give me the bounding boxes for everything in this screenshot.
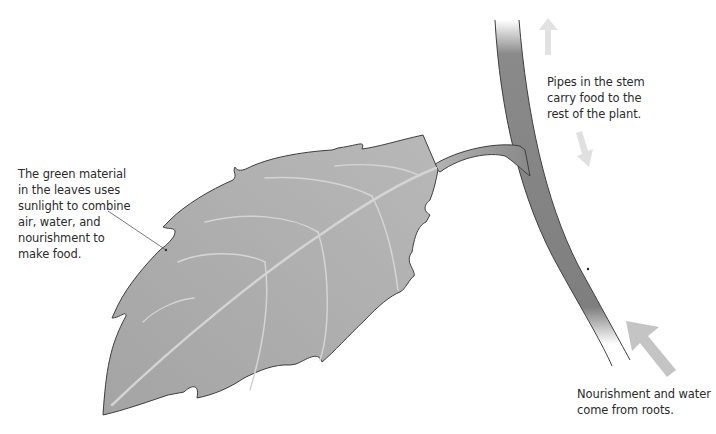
stem (495, 20, 630, 366)
leaf-label: The green material in the leaves uses su… (18, 166, 168, 262)
down-arrow-icon (576, 131, 593, 167)
roots-arrow-icon (626, 321, 676, 377)
roots-label: Nourishment and water come from roots. (577, 386, 716, 418)
up-arrow-icon (539, 18, 558, 55)
stem-label: Pipes in the stem carry food to the rest… (547, 74, 667, 122)
petiole (432, 145, 530, 176)
